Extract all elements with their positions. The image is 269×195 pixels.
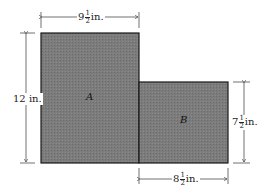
bottom-dimension-label: 812in.	[172, 172, 200, 187]
whole: 9	[78, 11, 84, 22]
denominator: 2	[180, 180, 184, 187]
right-dimension-label: 712in.	[231, 115, 259, 130]
denominator: 2	[85, 18, 89, 25]
region-a-label: A	[86, 91, 93, 102]
unit: in.	[186, 173, 199, 184]
unit: in.	[91, 11, 104, 22]
whole: 12	[13, 93, 26, 104]
denominator: 2	[239, 123, 243, 130]
fraction: 12	[239, 115, 243, 130]
unit: in.	[29, 93, 42, 104]
fraction: 12	[85, 10, 89, 25]
region-b-label: B	[180, 114, 187, 125]
left-dimension-label: 12 in.	[12, 93, 43, 105]
top-dimension-label: 912in.	[77, 10, 105, 25]
fraction: 12	[180, 172, 184, 187]
whole: 7	[232, 116, 238, 127]
unit: in.	[245, 116, 258, 127]
whole: 8	[173, 173, 179, 184]
